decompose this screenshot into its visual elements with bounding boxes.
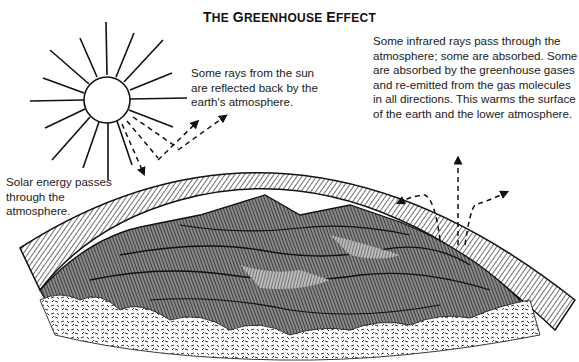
annotation-infrared-rays: Some infrared rays pass through the atmo… (373, 34, 577, 122)
sun-icon (30, 22, 187, 180)
annotation-solar-energy: Solar energy passes through the atmosphe… (6, 175, 112, 219)
annotation-reflected-rays: Some rays from the sun are reflected bac… (191, 66, 318, 110)
reflected-ray-arrows (158, 117, 224, 160)
